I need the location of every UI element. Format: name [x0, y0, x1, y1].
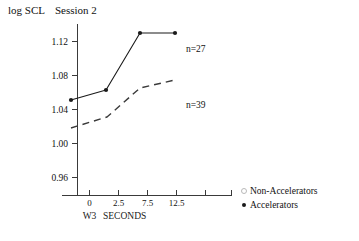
annotation-accelerators-n: n=27: [186, 45, 206, 55]
baseline-label: W3: [74, 212, 106, 222]
data-point-marker: [69, 98, 73, 102]
legend-label: Accelerators: [250, 200, 298, 210]
legend-item-accelerators[interactable]: Accelerators: [238, 198, 318, 212]
legend: Non-Accelerators Accelerators: [238, 184, 318, 212]
series-line-accelerators: [71, 33, 175, 100]
y-axis-ticks: [72, 42, 78, 178]
y-tick-label: 1.12: [38, 38, 68, 48]
chart-figure: log SCL Session 2: [0, 0, 359, 241]
x-axis-ticks: [90, 190, 232, 196]
y-tick-label: 1.08: [38, 72, 68, 82]
data-point-marker: [104, 88, 108, 92]
series-line-non-accelerators: [71, 80, 175, 128]
legend-label: Non-Accelerators: [250, 186, 318, 196]
x-tick-label: 12.5: [161, 199, 193, 208]
legend-item-non-accelerators[interactable]: Non-Accelerators: [238, 184, 318, 198]
y-tick-label: 1.00: [38, 140, 68, 150]
data-point-marker: [138, 31, 142, 35]
filled-circle-icon: [238, 203, 250, 208]
annotation-non-accelerators-n: n=39: [186, 101, 206, 111]
y-tick-label: 1.04: [38, 106, 68, 116]
x-tick-label: 2.5: [103, 199, 135, 208]
data-point-marker: [173, 31, 177, 35]
x-tick-label: 0: [74, 199, 106, 208]
series-markers-accelerators: [69, 31, 177, 102]
x-axis-title: SECONDS: [103, 212, 146, 222]
y-tick-label: 0.96: [38, 174, 68, 184]
open-circle-icon: [238, 188, 250, 194]
x-tick-label: 7.5: [132, 199, 164, 208]
